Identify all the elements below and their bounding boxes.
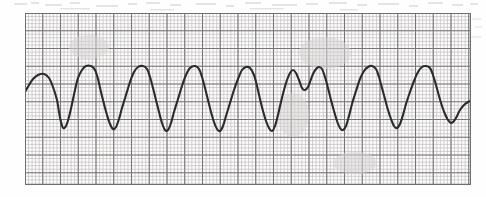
- scan-artifact-top: [0, 0, 486, 14]
- scan-artifact-right: [470, 14, 486, 54]
- ecg-page: [0, 0, 486, 197]
- ecg-trace-lead-ii: [25, 65, 471, 131]
- ecg-waveform: [25, 13, 471, 185]
- ecg-rhythm-strip: [25, 13, 471, 185]
